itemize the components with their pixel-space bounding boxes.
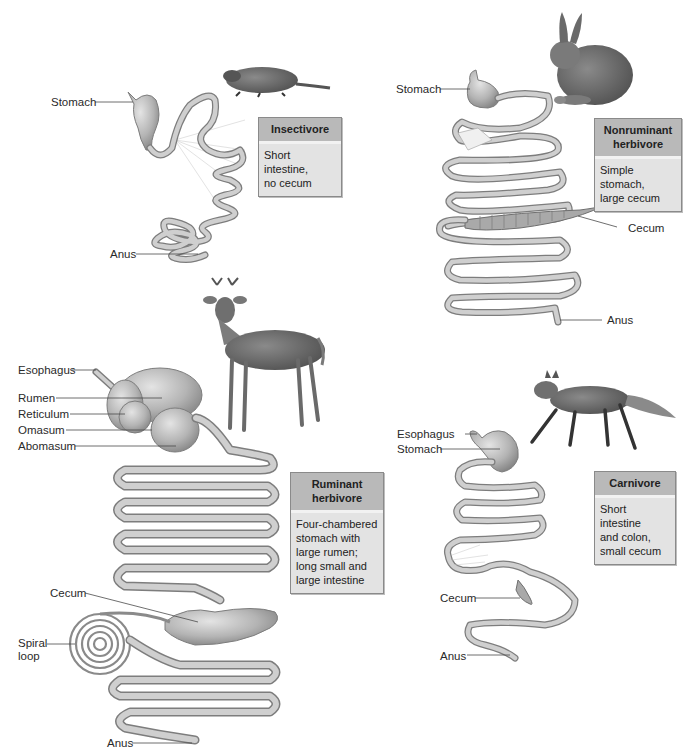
infobox-ruminant: Ruminant herbivore Four-chambered stomac… [290,472,384,594]
infobox-nonruminant: Nonruminant herbivore Simple stomach, la… [594,118,682,212]
label-ruminant-rumen: Rumen [18,392,55,405]
label-nonruminant-anus: Anus [607,314,633,327]
label-insectivore-anus: Anus [110,248,136,261]
label-carnivore-anus: Anus [440,650,466,663]
ruminant-gut [47,278,325,743]
mole-illustration [223,67,330,97]
deer-illustration [203,278,325,430]
label-ruminant-spiral-loop: Spiral loop [18,637,47,663]
infobox-description: Short intestine and colon, small cecum [595,498,675,564]
infobox-description: Simple stomach, large cecum [595,159,681,211]
label-ruminant-omasum: Omasum [18,424,65,437]
infobox-title: Carnivore [595,472,675,498]
infobox-title: Ruminant herbivore [291,473,383,513]
label-ruminant-reticulum: Reticulum [18,408,69,421]
infobox-description: Short intestine, no cecum [259,144,341,196]
label-nonruminant-cecum: Cecum [628,222,664,235]
label-ruminant-abomasum: Abomasum [18,440,76,453]
label-carnivore-cecum: Cecum [440,592,476,605]
digestive-systems-diagram: Stomach Anus Insectivore Short intestine… [0,0,697,756]
label-carnivore-stomach: Stomach [397,443,442,456]
infobox-carnivore: Carnivore Short intestine and colon, sma… [594,471,676,565]
label-ruminant-esophagus: Esophagus [18,364,76,377]
infobox-description: Four-chambered stomach with large rumen;… [291,513,383,593]
label-insectivore-stomach: Stomach [51,96,96,109]
label-ruminant-anus: Anus [107,737,133,750]
label-carnivore-esophagus: Esophagus [397,428,455,441]
diagram-artwork [0,0,697,756]
infobox-title: Nonruminant herbivore [595,119,681,159]
label-ruminant-cecum: Cecum [50,587,86,600]
fox-illustration [532,370,676,448]
infobox-title: Insectivore [259,118,341,144]
rabbit-illustration [550,12,633,105]
infobox-insectivore: Insectivore Short intestine, no cecum [258,117,342,197]
label-nonruminant-stomach: Stomach [396,83,441,96]
